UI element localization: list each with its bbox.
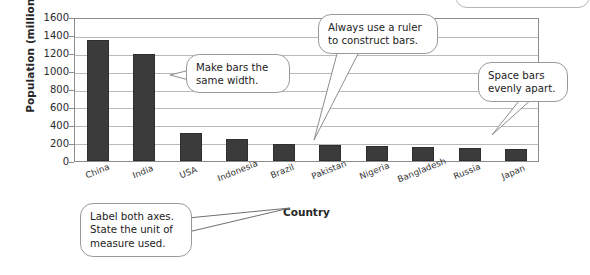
bar-japan	[505, 149, 527, 161]
y-tick-label: 600	[5, 103, 69, 113]
bar-pakistan	[319, 145, 341, 161]
y-tick-label: 1600	[5, 13, 69, 23]
y-tick-label: 1000	[5, 67, 69, 77]
y-tick-label: 400	[5, 121, 69, 131]
bar-russia	[459, 148, 481, 161]
callout-spacing-line1: Space bars	[488, 69, 558, 82]
x-tick-label-brazil: Brazil	[269, 162, 296, 180]
x-tick-label-russia: Russia	[452, 161, 482, 181]
y-tick-mark	[69, 162, 74, 163]
callout-axis-labels-line2: State the unit of	[90, 223, 182, 236]
callout-partial-topright	[455, 0, 590, 8]
plot-area	[74, 18, 539, 162]
callout-axis-labels-line3: measure used.	[90, 237, 182, 250]
y-tick-label: 800	[5, 85, 69, 95]
x-tick-label-india: India	[131, 163, 155, 180]
callout-axis-labels: Label both axes. State the unit of measu…	[80, 203, 192, 257]
callout-bar-width: Make bars the same width.	[186, 54, 290, 93]
x-tick-label-japan: Japan	[500, 163, 526, 181]
callout-axis-labels-line1: Label both axes.	[90, 210, 182, 223]
bar-indonesia	[226, 139, 248, 161]
bar-india	[133, 54, 155, 161]
bar-nigeria	[366, 146, 388, 161]
callout-ruler-line1: Always use a ruler	[328, 21, 428, 34]
y-tick-label: 0	[5, 157, 69, 167]
bar-usa	[180, 133, 202, 161]
bar-brazil	[273, 144, 295, 161]
x-tick-label-usa: USA	[178, 164, 199, 180]
bar-bangladesh	[412, 147, 434, 161]
y-tick-label: 1200	[5, 49, 69, 59]
callout-ruler: Always use a ruler to construct bars.	[318, 14, 438, 54]
bar-china	[87, 40, 109, 161]
callout-tail-axis-labels	[186, 206, 294, 238]
callout-tail-ruler	[310, 48, 400, 144]
gridline	[75, 37, 538, 38]
callout-bar-width-line1: Make bars the	[196, 61, 280, 74]
y-tick-label: 200	[5, 139, 69, 149]
x-tick-label-nigeria: Nigeria	[358, 160, 391, 181]
callout-spacing-line2: evenly apart.	[488, 82, 558, 95]
callout-ruler-line2: to construct bars.	[328, 34, 428, 47]
callout-bar-width-line2: same width.	[196, 74, 280, 87]
x-tick-label-china: China	[84, 162, 111, 181]
callout-spacing: Space bars evenly apart.	[478, 62, 568, 102]
y-tick-label: 1400	[5, 31, 69, 41]
